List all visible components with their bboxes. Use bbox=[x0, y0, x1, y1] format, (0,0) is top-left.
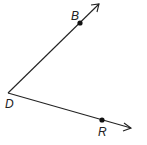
label-B: B bbox=[71, 9, 79, 23]
label-R: R bbox=[98, 125, 107, 139]
angle-diagram: B D R bbox=[0, 0, 147, 145]
ray-DB bbox=[8, 4, 99, 93]
ray-DR bbox=[8, 93, 131, 128]
point-R bbox=[99, 117, 104, 122]
label-D: D bbox=[5, 97, 14, 111]
